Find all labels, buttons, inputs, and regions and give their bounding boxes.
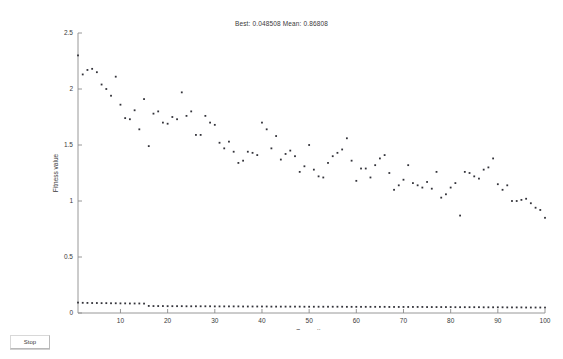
y-axis-ticks: 00.511.522.5: [64, 29, 82, 316]
svg-text:0: 0: [69, 309, 73, 316]
chart-canvas: 102030405060708090100 00.511.522.5 Gener…: [0, 0, 563, 330]
svg-text:90: 90: [494, 317, 502, 324]
svg-text:100: 100: [540, 317, 551, 324]
svg-text:40: 40: [258, 317, 266, 324]
svg-text:1: 1: [69, 197, 73, 204]
svg-text:1.5: 1.5: [64, 141, 73, 148]
y-axis-label: Fitness value: [52, 153, 59, 192]
svg-text:70: 70: [400, 317, 408, 324]
mean-fitness-series: [77, 55, 546, 219]
best-fitness-series: [77, 302, 546, 309]
svg-text:80: 80: [447, 317, 455, 324]
axis-lines: [78, 33, 545, 313]
x-axis-ticks: 102030405060708090100: [117, 309, 551, 324]
stop-button[interactable]: Stop: [10, 335, 50, 349]
svg-text:0.5: 0.5: [64, 253, 73, 260]
svg-text:20: 20: [164, 317, 172, 324]
svg-text:2: 2: [69, 85, 73, 92]
svg-text:50: 50: [306, 317, 314, 324]
svg-text:30: 30: [211, 317, 219, 324]
svg-text:60: 60: [353, 317, 361, 324]
fitness-plot: Best: 0.048508 Mean: 0.86808 10203040506…: [0, 0, 563, 330]
figure-window: Best: 0.048508 Mean: 0.86808 10203040506…: [0, 0, 563, 359]
svg-text:2.5: 2.5: [64, 29, 73, 36]
button-bar: Stop: [0, 330, 563, 359]
svg-text:10: 10: [117, 317, 125, 324]
